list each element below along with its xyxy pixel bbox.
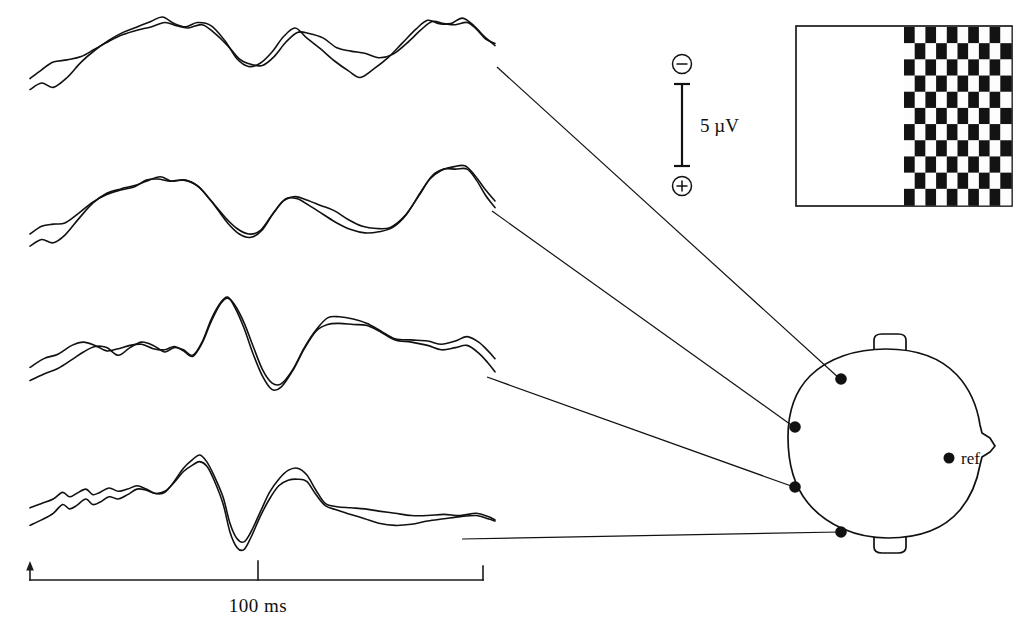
check-cell-dark [990, 92, 1001, 109]
electrode-site-1[interactable] [835, 373, 847, 385]
check-cell-dark [968, 59, 979, 76]
check-cell-dark [968, 124, 979, 141]
check-cell-light [1000, 27, 1011, 44]
check-cell-dark [947, 124, 958, 141]
check-cell-light [936, 92, 947, 109]
head-schematic: ref [788, 334, 995, 553]
leader-line-channel-1 [497, 67, 840, 379]
check-cell-light [915, 189, 926, 206]
check-cell-light [979, 189, 990, 206]
check-cell-light [925, 43, 936, 60]
check-cell-light [925, 140, 936, 157]
check-cell-light [979, 92, 990, 109]
trace-channel-2 [30, 165, 495, 246]
check-cell-light [968, 76, 979, 93]
check-cell-light [936, 189, 947, 206]
check-cell-light [958, 27, 969, 44]
check-cell-dark [979, 140, 990, 157]
check-cell-dark [979, 43, 990, 60]
electrode-site-4[interactable] [835, 526, 847, 538]
leader-line-group [462, 67, 840, 539]
check-cell-dark [958, 108, 969, 125]
check-cell-light [904, 76, 915, 93]
check-cell-light [958, 156, 969, 173]
stimulus-blank-half [797, 27, 904, 205]
trace-channel-1 [30, 17, 495, 90]
check-cell-dark [990, 189, 1001, 206]
check-cell-light [968, 140, 979, 157]
stimulus-checkerboard-half [904, 27, 1011, 205]
check-cell-light [904, 43, 915, 60]
figure-root: 100 ms 5 µV [0, 0, 1024, 633]
check-cell-dark [904, 59, 915, 76]
check-cell-dark [958, 140, 969, 157]
trace-sweep [30, 21, 495, 78]
check-cell-dark [925, 92, 936, 109]
check-cell-light [1000, 59, 1011, 76]
electrode-site-2[interactable] [789, 421, 801, 433]
electrode-site-3[interactable] [789, 481, 801, 493]
figure-canvas: 100 ms 5 µV [0, 0, 1024, 633]
check-cell-dark [968, 189, 979, 206]
check-cell-dark [958, 173, 969, 190]
leader-line-channel-4 [462, 532, 840, 539]
check-cell-light [979, 27, 990, 44]
check-cell-light [936, 124, 947, 141]
check-cell-dark [968, 156, 979, 173]
check-cell-light [915, 59, 926, 76]
check-cell-dark [990, 59, 1001, 76]
stimulus-display [796, 26, 1012, 206]
check-cell-light [990, 108, 1001, 125]
stimulus-onset-arrow-icon [26, 561, 34, 580]
head-outline-icon [788, 349, 995, 538]
check-cell-light [925, 108, 936, 125]
check-cell-dark [925, 156, 936, 173]
check-cell-light [968, 173, 979, 190]
check-cell-dark [947, 189, 958, 206]
check-cell-dark [936, 140, 947, 157]
check-cell-light [968, 43, 979, 60]
check-cell-light [947, 76, 958, 93]
check-cell-light [979, 156, 990, 173]
check-cell-light [936, 27, 947, 44]
check-cell-dark [925, 189, 936, 206]
check-cell-light [936, 156, 947, 173]
check-cell-light [968, 108, 979, 125]
check-cell-dark [958, 43, 969, 60]
check-cell-dark [904, 156, 915, 173]
check-cell-dark [990, 156, 1001, 173]
check-cell-light [915, 27, 926, 44]
trace-sweep [30, 168, 495, 246]
check-cell-dark [979, 108, 990, 125]
trace-sweep [30, 298, 495, 385]
trace-channel-3 [30, 297, 495, 390]
amplitude-calibration: 5 µV [673, 55, 740, 196]
reference-electrode-dot[interactable] [944, 453, 955, 464]
positive-polarity-icon [673, 177, 692, 196]
check-cell-light [947, 173, 958, 190]
check-cell-light [958, 189, 969, 206]
time-axis-label: 100 ms [229, 595, 287, 616]
check-cell-dark [915, 173, 926, 190]
check-cell-dark [1000, 140, 1011, 157]
check-cell-light [915, 92, 926, 109]
check-cell-light [904, 108, 915, 125]
check-cell-dark [925, 124, 936, 141]
check-cell-light [947, 43, 958, 60]
check-cell-dark [968, 27, 979, 44]
check-cell-light [990, 43, 1001, 60]
check-cell-light [1000, 92, 1011, 109]
check-cell-light [1000, 156, 1011, 173]
check-cell-light [990, 173, 1001, 190]
check-cell-dark [979, 173, 990, 190]
trace-sweep [30, 165, 495, 234]
check-cell-dark [990, 124, 1001, 141]
check-cell-dark [904, 92, 915, 109]
check-cell-light [1000, 124, 1011, 141]
check-cell-light [958, 59, 969, 76]
check-cell-dark [936, 76, 947, 93]
trace-sweep [30, 297, 495, 390]
check-cell-dark [936, 43, 947, 60]
check-cell-light [904, 140, 915, 157]
check-cell-dark [979, 76, 990, 93]
